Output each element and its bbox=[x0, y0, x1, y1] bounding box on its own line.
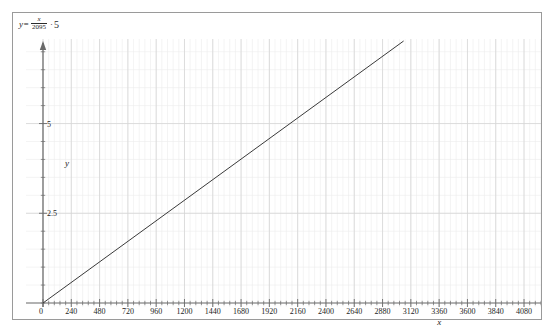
equation-lhs: y= bbox=[19, 20, 29, 29]
y-axis-tick-label: 5 bbox=[47, 119, 51, 128]
x-axis-tick-label: 0 bbox=[39, 307, 43, 316]
x-axis-name: x bbox=[437, 317, 441, 327]
plot-svg bbox=[26, 39, 541, 307]
x-axis-tick-label: 720 bbox=[122, 307, 134, 316]
x-axis-tick-label: 1920 bbox=[261, 307, 277, 316]
equation-coefficient: 5 bbox=[54, 20, 59, 30]
series-line-group bbox=[43, 41, 404, 303]
y-axis-name: y bbox=[65, 158, 69, 168]
grid-major-group bbox=[26, 39, 541, 307]
graph-frame: y= x 2095 · 5 02404807209601200144016801… bbox=[12, 12, 542, 320]
equation-operator: · bbox=[49, 20, 53, 29]
x-axis-tick-label: 4080 bbox=[516, 307, 532, 316]
x-axis-tick-label: 1200 bbox=[176, 307, 192, 316]
x-axis-tick-label: 3120 bbox=[403, 307, 419, 316]
y-axis-tick-label: 2.5 bbox=[47, 209, 57, 218]
x-axis-tick-label: 240 bbox=[65, 307, 77, 316]
x-axis-tick-label: 2640 bbox=[346, 307, 362, 316]
x-axis-tick-label: 960 bbox=[150, 307, 162, 316]
equation-caption: y= x 2095 · 5 bbox=[19, 17, 59, 32]
equation-numerator: x bbox=[36, 16, 43, 23]
plot-area bbox=[26, 39, 541, 307]
x-axis-tick-label: 3600 bbox=[459, 307, 475, 316]
grid-minor-group bbox=[26, 39, 541, 307]
y-axis-arrow-icon bbox=[40, 41, 46, 50]
x-axis-tick-label: 480 bbox=[94, 307, 106, 316]
x-axis-tick-label: 2880 bbox=[375, 307, 391, 316]
x-axis-tick-label: 3840 bbox=[488, 307, 504, 316]
graph-screenshot: y= x 2095 · 5 02404807209601200144016801… bbox=[0, 0, 555, 332]
x-axis-tick-label: 3360 bbox=[431, 307, 447, 316]
x-axis-tick-label: 2160 bbox=[290, 307, 306, 316]
equation-denominator: 2095 bbox=[31, 24, 47, 31]
series-line bbox=[43, 41, 404, 303]
tick-marks-group bbox=[39, 52, 541, 307]
x-axis-tick-label: 2400 bbox=[318, 307, 334, 316]
x-axis-tick-label: 1680 bbox=[233, 307, 249, 316]
equation-fraction: x 2095 bbox=[31, 16, 47, 31]
x-axis-tick-label: 1440 bbox=[205, 307, 221, 316]
